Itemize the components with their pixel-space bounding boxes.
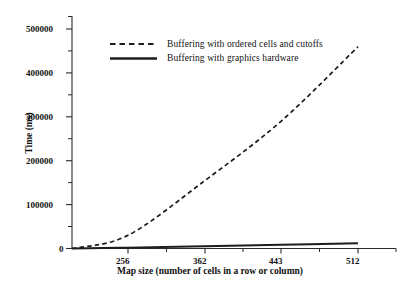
y-axis-title: Time (ms) bbox=[24, 98, 34, 168]
y-tick-label-0: 0 bbox=[59, 244, 64, 254]
series-line-ordered-cells bbox=[72, 47, 358, 249]
x-tick-label-512: 512 bbox=[346, 256, 360, 266]
y-tick-label-500000: 500000 bbox=[26, 24, 53, 34]
y-tick-label-400000: 400000 bbox=[26, 68, 53, 78]
legend-item-graphics-hardware: Buffering with graphics hardware bbox=[167, 53, 299, 63]
x-axis-title: Map size (number of cells in a row or co… bbox=[0, 266, 420, 276]
x-tick-label-362: 362 bbox=[193, 256, 207, 266]
series-line-graphics-hardware bbox=[72, 243, 358, 248]
chart-figure: 500000 400000 300000 200000 100000 0 256… bbox=[0, 0, 420, 288]
x-tick-label-443: 443 bbox=[269, 256, 283, 266]
legend-item-ordered-cells: Buffering with ordered cells and cutoffs bbox=[167, 39, 323, 49]
y-tick-label-100000: 100000 bbox=[26, 200, 53, 210]
x-tick-label-256: 256 bbox=[116, 256, 130, 266]
